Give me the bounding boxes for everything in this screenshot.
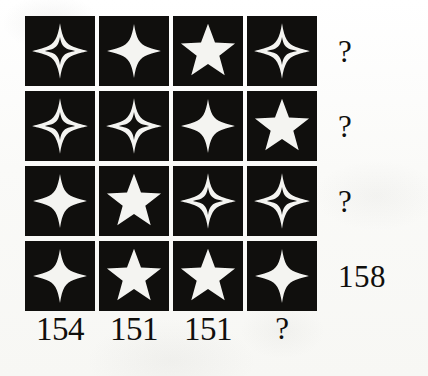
four-point-star-outline-icon [179, 172, 237, 230]
grid-cell-r4c2 [99, 241, 169, 311]
four-point-star-outline-icon [31, 22, 89, 80]
grid-cell-r2c4 [247, 91, 317, 161]
four-point-star-outline-icon [31, 97, 89, 155]
five-point-star-solid-icon [179, 247, 237, 305]
row-total-value-4: 158 [326, 241, 426, 311]
four-point-star-outline-icon [253, 172, 311, 230]
grid-cell-r4c1 [25, 241, 95, 311]
grid-cell-r1c1 [25, 16, 95, 86]
star-grid-puzzle: ???158 154151151? [0, 0, 428, 376]
row-total-unknown-3: ? [326, 166, 426, 236]
grid-cell-r1c4 [247, 16, 317, 86]
grid-cell-r4c3 [173, 241, 243, 311]
five-point-star-solid-icon [179, 22, 237, 80]
grid-cell-r1c3 [173, 16, 243, 86]
column-total-unknown-4: ? [247, 313, 317, 346]
four-point-star-outline-icon [105, 97, 163, 155]
grid-cell-r3c3 [173, 166, 243, 236]
grid-cell-r3c1 [25, 166, 95, 236]
grid-cell-r2c2 [99, 91, 169, 161]
grid-cell-r2c1 [25, 91, 95, 161]
column-total-value-3: 151 [173, 313, 243, 346]
star-tile-grid [25, 16, 317, 311]
row-total-unknown-2: ? [326, 91, 426, 161]
grid-cell-r3c4 [247, 166, 317, 236]
column-total-value-2: 151 [99, 313, 169, 346]
column-total-labels: 154151151? [25, 313, 317, 346]
grid-cell-r2c3 [173, 91, 243, 161]
four-point-star-solid-icon [106, 23, 162, 79]
four-point-star-solid-icon [32, 248, 88, 304]
four-point-star-solid-icon [32, 173, 88, 229]
five-point-star-solid-icon [105, 247, 163, 305]
row-total-labels: ???158 [326, 16, 426, 311]
column-total-value-1: 154 [25, 313, 95, 346]
row-total-unknown-1: ? [326, 16, 426, 86]
five-point-star-solid-icon [105, 172, 163, 230]
four-point-star-solid-icon [254, 248, 310, 304]
four-point-star-outline-icon [253, 22, 311, 80]
five-point-star-solid-icon [253, 97, 311, 155]
four-point-star-solid-icon [180, 98, 236, 154]
grid-cell-r3c2 [99, 166, 169, 236]
grid-cell-r4c4 [247, 241, 317, 311]
grid-cell-r1c2 [99, 16, 169, 86]
